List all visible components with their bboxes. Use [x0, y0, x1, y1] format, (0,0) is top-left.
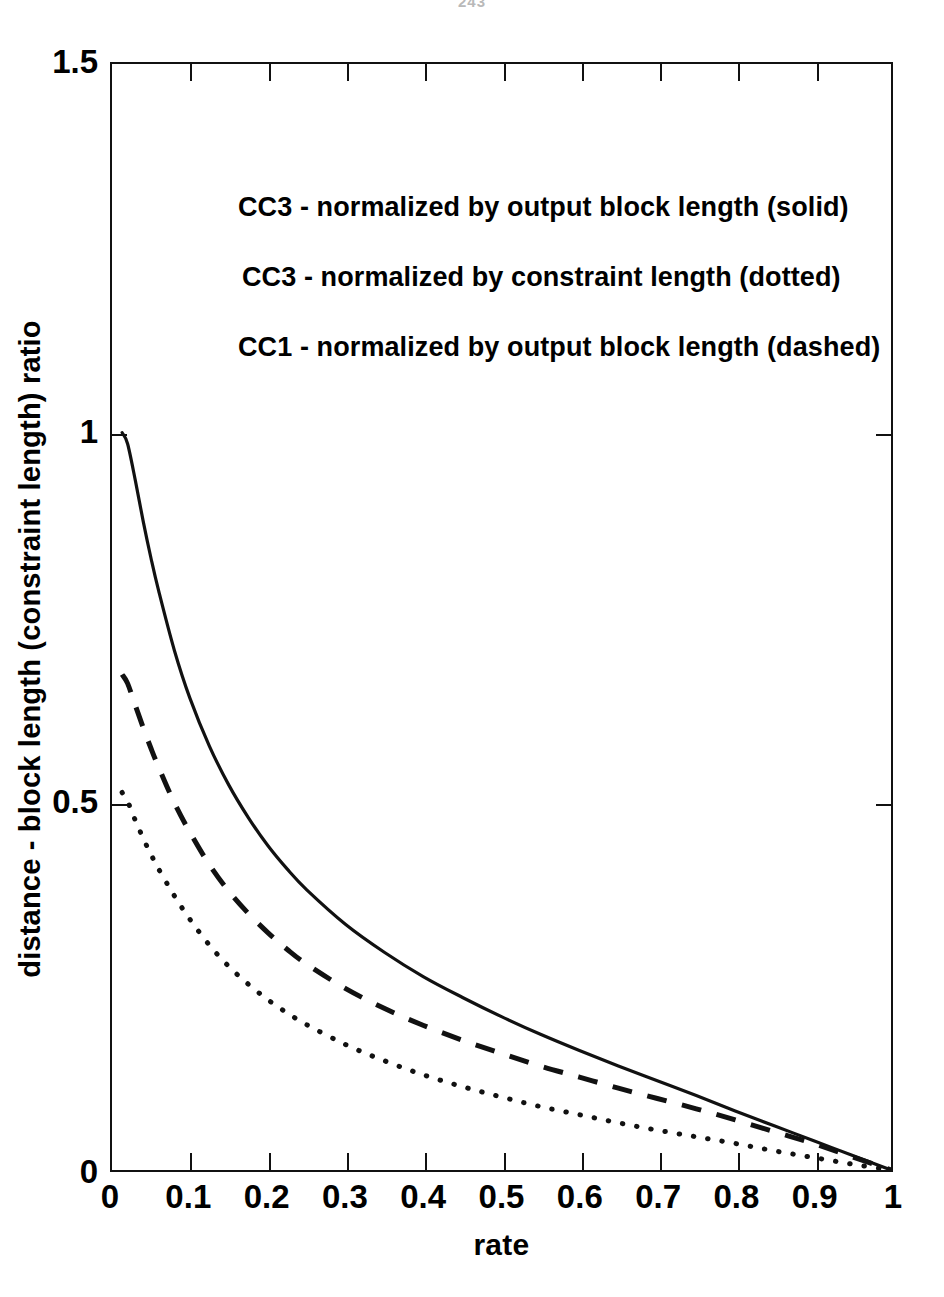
y-axis-title: distance - block length (constraint leng… [14, 320, 47, 978]
figure-container: 243 CC3 - normalized by output block len… [0, 0, 944, 1297]
x-axis-title: rate [110, 1228, 893, 1262]
y-axis-title-wrapper: distance - block length (constraint leng… [0, 0, 60, 1297]
y-tick-labels: 00.511.5 [0, 0, 944, 1297]
